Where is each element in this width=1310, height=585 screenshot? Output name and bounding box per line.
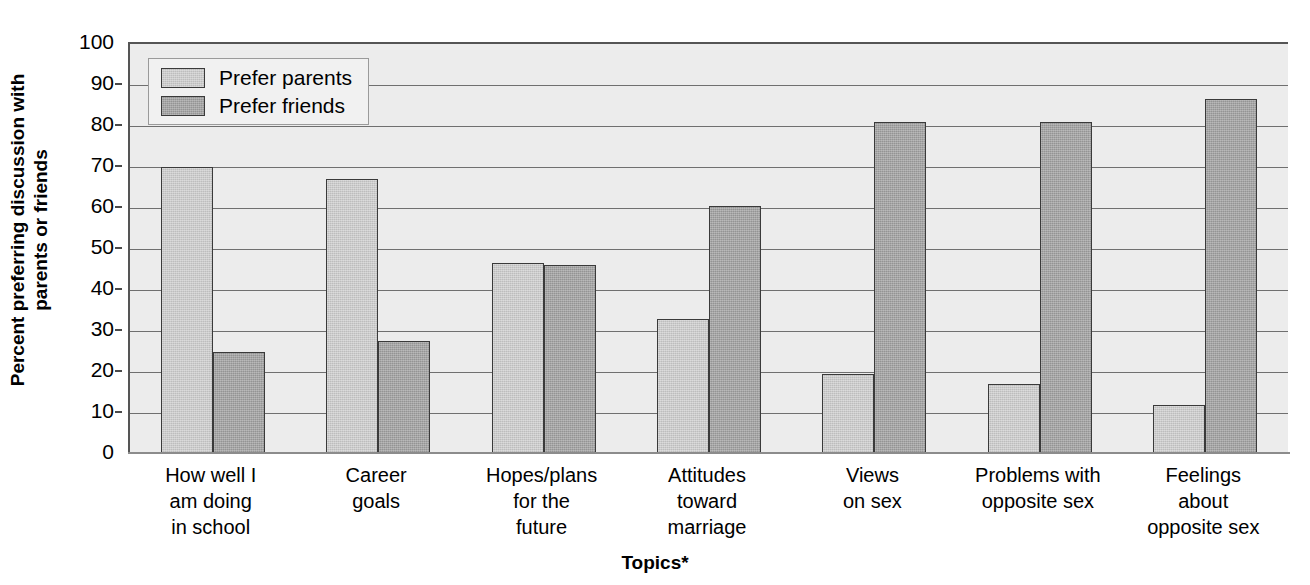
y-axis-title-line1: Percent preferring discussion with [6, 74, 29, 387]
x-axis-label: Feelingsaboutopposite sex [1121, 462, 1286, 540]
x-axis-label-line: in school [128, 514, 293, 540]
x-axis-label: Attitudestowardmarriage [624, 462, 789, 540]
bar[interactable] [378, 341, 430, 454]
x-axis-label-line: How well I [128, 462, 293, 488]
x-axis-label-line: about [1121, 488, 1286, 514]
x-axis-label-line: opposite sex [1121, 514, 1286, 540]
bar[interactable] [1040, 122, 1092, 454]
bar-group [822, 44, 926, 454]
x-axis-label: How well Iam doingin school [128, 462, 293, 540]
y-tick-mark [115, 206, 122, 208]
y-axis-title-line2: parents or friends [29, 74, 52, 387]
bar[interactable] [1153, 405, 1205, 454]
y-tick-label: 100 [60, 31, 114, 52]
y-tick-label: 50 [60, 236, 114, 257]
x-axis-label-line: on sex [790, 488, 955, 514]
y-axis-title: Percent preferring discussion with paren… [0, 0, 58, 460]
x-axis-label: Viewson sex [790, 462, 955, 514]
y-tick-label: 60 [60, 195, 114, 216]
x-axis-label-line: future [459, 514, 624, 540]
x-axis-label: Hopes/plansfor thefuture [459, 462, 624, 540]
legend: Prefer parentsPrefer friends [148, 58, 369, 125]
y-axis-ticks: 0102030405060708090100 [60, 32, 122, 460]
x-axis-label-line: opposite sex [955, 488, 1120, 514]
bar[interactable] [709, 206, 761, 454]
y-tick-label: 10 [60, 400, 114, 421]
x-axis-label-line: for the [459, 488, 624, 514]
y-tick-label: 30 [60, 318, 114, 339]
bar[interactable] [822, 374, 874, 454]
y-tick-label: 20 [60, 359, 114, 380]
bar[interactable] [1205, 99, 1257, 454]
bar[interactable] [874, 122, 926, 454]
x-axis-label-line: am doing [128, 488, 293, 514]
y-tick-label: 0 [60, 441, 114, 462]
bar-group [657, 44, 761, 454]
bar-group [492, 44, 596, 454]
bar-chart: Percent preferring discussion with paren… [0, 0, 1310, 585]
x-axis-line [128, 452, 1290, 454]
bar[interactable] [657, 319, 709, 454]
legend-label: Prefer parents [219, 67, 352, 88]
y-tick-mark [115, 165, 122, 167]
y-tick-mark [115, 370, 122, 372]
bar[interactable] [988, 384, 1040, 454]
y-tick-mark [115, 124, 122, 126]
x-axis-label: Careergoals [293, 462, 458, 514]
x-axis-label-line: Attitudes [624, 462, 789, 488]
bar[interactable] [213, 352, 265, 455]
bar-group [1153, 44, 1257, 454]
bar[interactable] [161, 167, 213, 454]
y-tick-label: 90 [60, 72, 114, 93]
legend-swatch-friends [161, 96, 205, 116]
y-tick-mark [115, 247, 122, 249]
y-tick-mark [115, 329, 122, 331]
bar-group [988, 44, 1092, 454]
x-axis-label-line: toward [624, 488, 789, 514]
legend-item[interactable]: Prefer parents [161, 67, 352, 88]
legend-item[interactable]: Prefer friends [161, 95, 352, 116]
x-axis-label-line: goals [293, 488, 458, 514]
y-tick-label: 80 [60, 113, 114, 134]
bar[interactable] [492, 263, 544, 454]
x-axis-label-line: Career [293, 462, 458, 488]
x-axis-label: Problems withopposite sex [955, 462, 1120, 514]
x-axis-label-line: Problems with [955, 462, 1120, 488]
x-axis-category-labels: How well Iam doingin schoolCareergoalsHo… [128, 462, 1286, 552]
y-tick-label: 40 [60, 277, 114, 298]
y-tick-mark [115, 83, 122, 85]
x-axis-title: Topics* [0, 552, 1310, 574]
bar[interactable] [326, 179, 378, 454]
y-tick-label: 70 [60, 154, 114, 175]
legend-label: Prefer friends [219, 95, 345, 116]
x-axis-label-line: Hopes/plans [459, 462, 624, 488]
bar[interactable] [544, 265, 596, 454]
y-tick-mark [115, 288, 122, 290]
x-axis-label-line: Views [790, 462, 955, 488]
x-axis-label-line: Feelings [1121, 462, 1286, 488]
x-axis-label-line: marriage [624, 514, 789, 540]
legend-swatch-parents [161, 68, 205, 88]
y-tick-mark [115, 411, 122, 413]
